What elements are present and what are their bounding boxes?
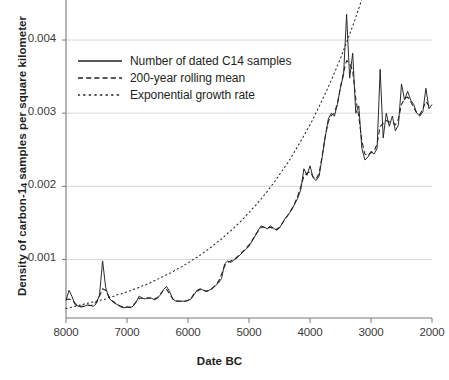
legend-item-label: 200-year rolling mean	[130, 71, 245, 85]
y-axis-title: Density of carbon-14 samples per square …	[16, 6, 28, 306]
x-axis-tick-label: 6000	[158, 326, 218, 338]
line-dashed-icon	[78, 72, 122, 84]
x-axis-tick-label: 5000	[219, 326, 279, 338]
x-axis-title: Date BC	[0, 355, 439, 367]
y-axis-tick-label: 0.001	[0, 251, 56, 263]
y-axis-title-pre: Density of carbon-1	[16, 188, 28, 296]
x-axis-tick-label: 8000	[36, 326, 96, 338]
legend-item-1[interactable]: Number of dated C14 samples	[78, 52, 308, 69]
legend-item-label: Exponential growth rate	[130, 88, 255, 102]
series-line-dotted	[66, 0, 365, 308]
x-axis-tick-label: 4000	[280, 326, 340, 338]
data-series-group	[66, 0, 432, 308]
y-axis-tick-label: 0.004	[0, 32, 56, 44]
y-axis-title-subscript: 4	[19, 183, 29, 188]
y-axis-tick-label: 0.003	[0, 105, 56, 117]
x-axis-tick-label: 7000	[97, 326, 157, 338]
axis-lines-group	[66, 0, 432, 318]
figure-caption	[16, 370, 436, 380]
x-axis-tick-label: 2000	[402, 326, 449, 338]
legend-item-3[interactable]: Exponential growth rate	[78, 86, 308, 103]
line-dotted-icon	[78, 89, 122, 101]
x-axis-tick-label: 3000	[341, 326, 401, 338]
chart-legend: Number of dated C14 samples200-year roll…	[78, 52, 308, 103]
line-solid-icon	[78, 55, 122, 67]
y-axis-title-post: samples per square kilometer	[16, 16, 28, 183]
legend-item-label: Number of dated C14 samples	[130, 54, 291, 68]
legend-item-2[interactable]: 200-year rolling mean	[78, 69, 308, 86]
